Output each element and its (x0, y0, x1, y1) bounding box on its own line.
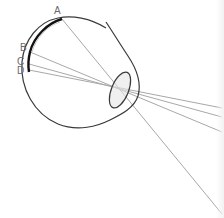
ray-a (62, 19, 222, 214)
label-d: D (17, 65, 24, 76)
label-b: B (20, 42, 27, 53)
page-edge-shadow (216, 0, 224, 218)
eye-diagram: A B C D (0, 0, 224, 218)
light-rays (29, 19, 222, 214)
label-a: A (54, 5, 61, 16)
retina-arc (28, 19, 62, 72)
